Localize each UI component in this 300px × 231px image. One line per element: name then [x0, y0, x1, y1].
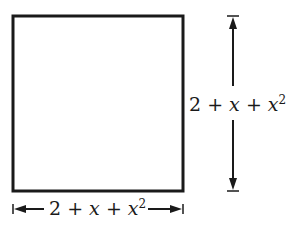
label-plus: + — [207, 93, 223, 115]
diagram-canvas — [0, 0, 300, 231]
label-constant: 2 — [49, 197, 61, 219]
label-constant: 2 — [189, 93, 201, 115]
label-x: x — [89, 197, 100, 219]
label-x: x — [268, 93, 279, 115]
label-x: x — [229, 93, 240, 115]
label-exponent: 2 — [279, 93, 287, 107]
label-plus: + — [67, 197, 83, 219]
height-label: 2 + x + x2 — [189, 95, 286, 114]
side-label: 2 + x + x2 — [49, 199, 146, 218]
label-plus: + — [106, 197, 122, 219]
label-plus: + — [246, 93, 262, 115]
label-x: x — [128, 197, 139, 219]
square — [13, 16, 183, 191]
label-exponent: 2 — [139, 197, 147, 211]
